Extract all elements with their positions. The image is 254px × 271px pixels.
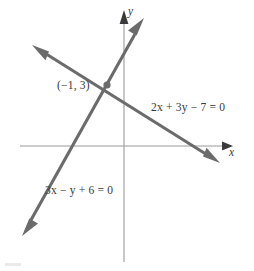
x-axis-label: x — [229, 147, 234, 159]
line-2x-plus-3y-minus-7-arrow-right — [203, 148, 220, 163]
line-3x-minus-y-plus-6-arrow-down — [22, 219, 38, 237]
line-2x-plus-3y-minus-7-arrow-left — [32, 45, 49, 60]
y-axis-label: y — [128, 6, 133, 18]
intersection-point-label: (−1, 3) — [57, 80, 90, 92]
intersection-point-marker — [103, 81, 110, 88]
line-graph-figure: (−1, 3) 2x + 3y − 7 = 0 3x − y + 6 = 0 y… — [0, 0, 254, 271]
graph-canvas — [0, 0, 254, 271]
line-3x-minus-y-plus-6-arrow-up — [128, 18, 144, 36]
scan-artifact — [5, 263, 21, 266]
equation-label-steep-line: 3x − y + 6 = 0 — [45, 185, 113, 197]
equation-label-shallow-line: 2x + 3y − 7 = 0 — [151, 102, 225, 114]
